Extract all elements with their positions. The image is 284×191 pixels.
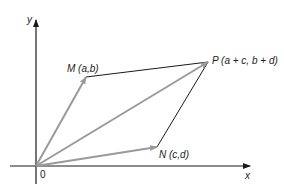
y-axis-label: y [27, 15, 32, 25]
edge-n-p [157, 62, 208, 147]
vector-om [36, 77, 86, 166]
point-p-label: P (a + c, b + d) [212, 56, 278, 66]
vector-on [36, 147, 157, 166]
x-axis-label: x [245, 171, 250, 181]
point-m-label: M (a,b) [67, 64, 99, 74]
point-n-label: N (c,d) [159, 150, 189, 160]
vector-parallelogram-diagram [0, 0, 284, 191]
origin-label: 0 [40, 170, 46, 180]
edge-m-p [86, 62, 208, 77]
